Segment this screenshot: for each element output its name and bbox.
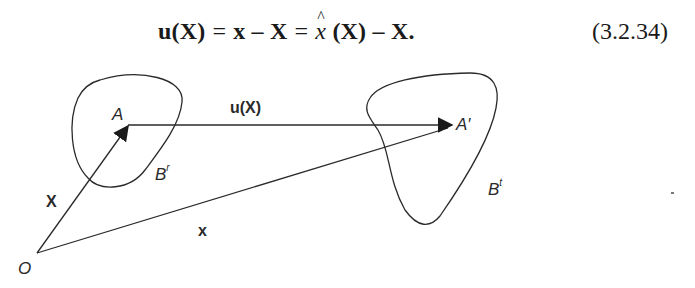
scan-artifact-speck — [671, 192, 674, 194]
label-vector-X: X — [46, 193, 57, 210]
label-point-A-prime: A′ — [455, 115, 471, 134]
current-body-outline — [367, 73, 498, 224]
label-reference-body-base: B — [155, 165, 166, 184]
label-reference-body: Br — [155, 162, 170, 184]
label-current-body-base: B — [488, 180, 499, 199]
label-current-body-sup: t — [499, 177, 503, 188]
label-origin-O: O — [18, 259, 31, 278]
position-vector-x — [37, 128, 448, 253]
label-current-body: Bt — [488, 177, 503, 199]
label-point-A: A — [111, 105, 123, 124]
label-reference-body-sup: r — [166, 162, 170, 173]
position-vector-X — [37, 126, 128, 253]
label-vector-x: x — [198, 222, 207, 239]
label-displacement-u: u(X) — [230, 99, 261, 116]
deformation-diagram: A A′ u(X) X x O Br Bt — [0, 0, 695, 288]
